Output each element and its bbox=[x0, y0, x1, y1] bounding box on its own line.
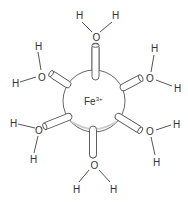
coordinate-bond-lower-left bbox=[42, 112, 73, 130]
oxygen-label: O bbox=[91, 160, 99, 171]
hexaaqua-iron-diagram: Fe3+ H H O H H O H H O H bbox=[0, 0, 188, 202]
hydrogen-label: H bbox=[151, 43, 158, 54]
hydrogen-label: H bbox=[174, 83, 181, 94]
hydrogen-label: H bbox=[35, 41, 42, 52]
oxygen-label: O bbox=[146, 126, 154, 137]
oxygen-label: O bbox=[146, 73, 154, 84]
hydrogen-label: H bbox=[153, 157, 160, 168]
ligand-upper-left: H H O bbox=[12, 41, 46, 89]
tube-end-top bbox=[92, 44, 99, 48]
hydrogen-label: H bbox=[112, 10, 119, 21]
hydrogen-label: H bbox=[73, 184, 80, 195]
hydrogen-label: H bbox=[76, 10, 83, 21]
ligand-bottom: H H O bbox=[73, 160, 117, 195]
oxygen-label: O bbox=[93, 32, 101, 43]
hydrogen-label: H bbox=[110, 184, 117, 195]
hydrogen-label: H bbox=[12, 78, 19, 89]
hydrogen-label: H bbox=[30, 154, 37, 165]
coordinate-bond-bottom-front bbox=[90, 126, 97, 158]
hydrogen-label: H bbox=[10, 118, 17, 129]
ligand-lower-left: H H O bbox=[10, 118, 43, 165]
hydrogen-label: H bbox=[173, 119, 180, 130]
coordinate-bond-lower-right bbox=[114, 112, 144, 134]
ligand-top: H H O bbox=[76, 10, 119, 43]
coordinate-bond-upper-right bbox=[119, 74, 144, 92]
coordinate-bond-upper-left bbox=[48, 70, 73, 89]
ligand-lower-right: H H O bbox=[146, 119, 180, 168]
oxygen-label: O bbox=[35, 125, 43, 136]
oxygen-label: O bbox=[38, 72, 46, 83]
coordinate-bond-top-front bbox=[92, 44, 99, 80]
